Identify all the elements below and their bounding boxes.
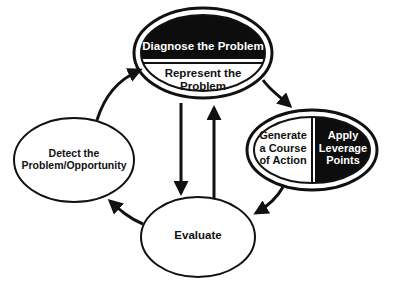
label-line: Problem/Opportunity xyxy=(14,159,134,171)
arrow-represent-to-generate xyxy=(263,80,290,106)
arrow-detect-to-diagnose xyxy=(97,70,140,120)
label-line: Detect the xyxy=(14,147,134,159)
label-diagnose-the-problem: Diagnose the Problem xyxy=(141,40,265,53)
label-line: a Course xyxy=(254,142,312,155)
label-evaluate: Evaluate xyxy=(141,229,255,242)
label-generate-course-of-action: Generate a Course of Action xyxy=(254,129,312,167)
arrow-evaluate-to-detect xyxy=(110,201,143,224)
label-represent-the-problem: Represent the Problem xyxy=(141,67,265,93)
label-detect-problem-opportunity: Detect the Problem/Opportunity xyxy=(14,147,134,171)
label-line: Generate xyxy=(254,129,312,142)
label-line: of Action xyxy=(254,154,312,167)
arrow-generate-to-evaluate xyxy=(256,187,283,213)
label-line: Points xyxy=(314,154,372,167)
label-line: Leverage xyxy=(314,142,372,155)
label-line: Apply xyxy=(314,129,372,142)
label-apply-leverage-points: Apply Leverage Points xyxy=(314,129,372,167)
